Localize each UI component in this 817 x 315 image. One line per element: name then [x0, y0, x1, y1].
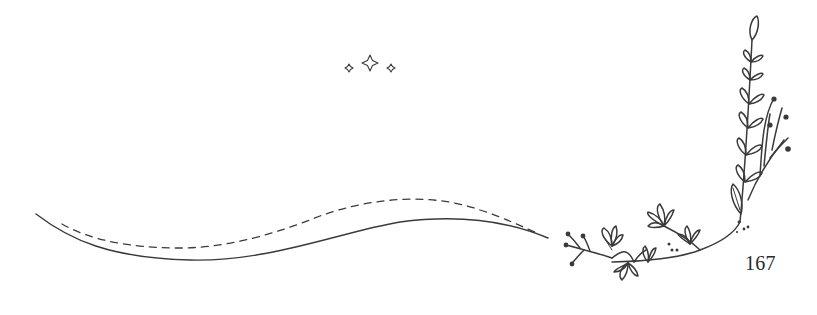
book-page: 167	[0, 0, 817, 315]
wavy-line-icon	[36, 199, 548, 260]
decorative-artwork	[0, 0, 817, 315]
leafy-branch-icon	[564, 16, 791, 280]
page-number: 167	[745, 252, 776, 275]
sparkle-icon	[345, 55, 395, 72]
